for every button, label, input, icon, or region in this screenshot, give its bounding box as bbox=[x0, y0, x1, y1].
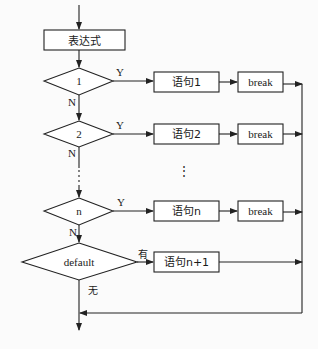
no-label-default: 无 bbox=[88, 285, 98, 296]
switch-flowchart: 表达式 1 Y N 语句1 break 2 Y N 语句2 break ⋮ n … bbox=[0, 0, 318, 349]
no-label-case-1: N bbox=[68, 96, 76, 108]
break-label-case-1: break bbox=[248, 76, 273, 88]
yes-label-default: 有 bbox=[138, 248, 148, 260]
break-label-case-n: break bbox=[248, 205, 273, 217]
condition-label-case-1: 1 bbox=[76, 75, 82, 87]
statement-label-case-n: 语句n bbox=[172, 205, 201, 218]
no-label-case-n: N bbox=[69, 226, 77, 238]
yes-label-case-1: Y bbox=[116, 66, 124, 78]
break-label-case-2: break bbox=[248, 128, 273, 140]
condition-label-case-2: 2 bbox=[76, 128, 82, 140]
ellipsis: ⋮ bbox=[178, 164, 190, 178]
flowchart-svg: 表达式 1 Y N 语句1 break 2 Y N 语句2 break ⋮ n … bbox=[0, 0, 318, 349]
condition-label-case-n: n bbox=[76, 205, 82, 217]
expression-label: 表达式 bbox=[68, 34, 101, 48]
condition-label-default: default bbox=[64, 256, 95, 268]
statement-label-case-2: 语句2 bbox=[172, 128, 201, 141]
no-label-case-2: N bbox=[68, 147, 76, 159]
statement-label-default: 语句n+1 bbox=[164, 256, 209, 269]
yes-label-case-n: Y bbox=[117, 196, 125, 208]
statement-label-case-1: 语句1 bbox=[172, 76, 201, 89]
yes-label-case-2: Y bbox=[116, 119, 124, 131]
